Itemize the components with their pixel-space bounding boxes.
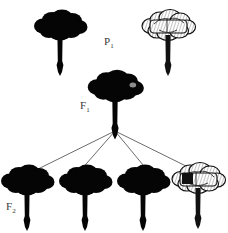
diagram-canvas [0, 0, 228, 233]
flower-white-p1-right [142, 10, 196, 77]
flower-stem [24, 190, 31, 231]
generation-p1 [34, 10, 196, 77]
generation-f1 [88, 70, 144, 140]
descent-line-group [32, 131, 192, 172]
generation-label-f1-subscript: 1 [86, 106, 90, 114]
flower-head-highlight [129, 82, 136, 87]
flower-black-f1 [88, 70, 144, 140]
generation-label-f2-subscript: 2 [12, 207, 16, 215]
flower-stem [82, 190, 89, 231]
flower-stem [165, 35, 172, 76]
flower-black-p1-left [34, 10, 88, 77]
flower-stem [195, 188, 202, 229]
generation-f2 [1, 163, 226, 232]
flower-stem [140, 190, 147, 231]
flower-white-f2-4 [172, 163, 226, 230]
flower-head-shadow-lobe [182, 173, 193, 184]
flower-stem [57, 35, 64, 76]
descent-line-to-f2-4 [115, 131, 192, 169]
flower-stem [111, 97, 118, 140]
generation-label-p1: P1 [104, 36, 114, 50]
descent-line-to-f2-1 [32, 131, 115, 172]
generation-label-p1-subscript: 1 [110, 42, 114, 50]
flower-black-f2-2 [59, 165, 113, 232]
inheritance-diagram: P1 F1 F2 [0, 0, 228, 233]
generation-label-f1: F1 [80, 100, 90, 114]
flower-black-f2-3 [117, 165, 171, 232]
generation-label-f2: F2 [6, 201, 16, 215]
flower-black-f2-1 [1, 165, 55, 232]
